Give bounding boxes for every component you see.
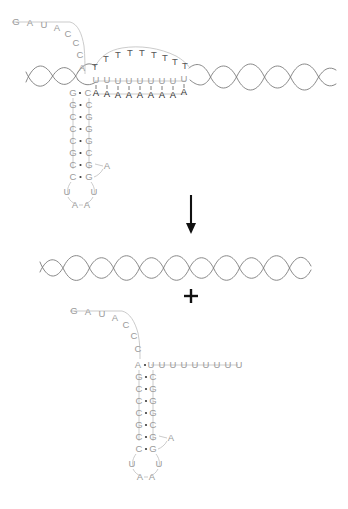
top-dna-template-a-row: A A A A A A A A A [93,86,188,100]
loop-right-u-base: U [91,186,98,197]
u-base: U [170,75,177,86]
u-base: U [181,359,188,370]
t-base: T [127,47,133,58]
top-stem-junction: G C [69,87,91,98]
stem-left-base: C [70,123,77,134]
u-base: U [203,359,210,370]
a-base: A [181,86,188,97]
stem-left-base: C [70,135,77,146]
junction-right-base: C [85,87,92,98]
loop-right-u-base: U [156,458,163,469]
stem-left-base: C [136,395,143,406]
t-base: T [172,56,178,67]
bottom-hairpin-stem: G C C G C G C G G C C G C G [135,370,156,454]
t-base: T [103,53,109,64]
u-base: U [225,359,232,370]
loop-left-u-base: U [129,458,136,469]
a-base: A [104,88,111,99]
pair-dot [145,436,147,438]
t-base: T [139,47,145,58]
a-base: A [93,87,100,98]
molecular-diagram: T T T T T T T T T G A U A C C C A U U U [0,0,348,509]
loop-bulge-base: A [104,160,111,171]
stem-left-base: C [136,383,143,394]
rna-tail-base: A [54,22,61,33]
rna-tail-base: U [41,19,48,30]
stem-right-base: C [86,147,93,158]
u-base: U [93,74,100,85]
pair-dot [79,164,81,166]
rna-tail-base: C [73,37,80,48]
reannealed-dna-duplex [40,256,311,281]
displaced-t-strand: T T T T T T T T T [92,47,190,72]
stem-right-base: G [149,431,156,442]
stem-right-base: G [149,395,156,406]
stem-left-base: C [70,111,77,122]
stem-left-base: C [70,171,77,182]
rna-tail-junction-base: A [79,62,86,73]
bottom-rna-horizontal-arm: A U U U U U U U U U [135,359,243,370]
pair-dot [145,400,147,402]
rna-tail-base: G [12,16,19,27]
stem-left-base: G [69,99,76,110]
rna-tail-base: C [65,28,72,39]
a-base: A [126,89,133,100]
rna-tail-base: C [131,330,138,341]
pair-dot [145,388,147,390]
junction-left-base: A [135,359,142,370]
rna-tail-base: A [27,17,34,28]
stem-left-base: G [135,371,142,382]
loop-left-u-base: U [64,186,71,197]
pair-dot [79,152,81,154]
u-base: U [159,359,166,370]
stem-right-base: G [85,123,92,134]
rna-tail-base: G [70,305,77,316]
rna-tail-base: C [135,343,142,354]
stem-left-base: C [136,407,143,418]
a-base: A [115,89,122,100]
top-dna-helix-right [189,64,336,90]
stem-right-base: G [149,407,156,418]
u-base: U [192,359,199,370]
plus-sign [184,289,198,303]
stem-left-base: C [70,159,77,170]
loop-bottom-base: A [84,199,91,210]
top-dna-helix-left [26,64,96,86]
pair-dot [79,176,81,178]
pair-dot [145,412,147,414]
bottom-rna-tail: G A U A C C C [70,305,142,359]
stem-right-base: G [85,135,92,146]
stem-right-base: C [150,371,157,382]
t-base: T [182,60,188,71]
top-rna-horizontal-arm: U U U U U U U U U [93,73,188,86]
loop-bottom-base: A [72,199,79,210]
u-base: U [159,75,166,86]
rna-tail-base: C [77,49,84,60]
stem-right-base: G [85,159,92,170]
u-base: U [104,74,111,85]
rna-tail-base: A [112,312,119,323]
pair-dot [144,364,146,366]
arrowhead [186,223,196,234]
u-base: U [126,75,133,86]
top-rna-tail: G A U A C C C A [12,16,86,74]
stem-right-base: G [85,171,92,182]
loop-bulge-base: A [168,432,175,443]
rna-tail-base: A [85,306,92,317]
stem-left-base: G [135,419,142,430]
u-base: U [181,73,188,84]
stem-left-base: C [136,431,143,442]
stem-right-base: C [86,99,93,110]
u-base: U [236,359,243,370]
t-base: T [92,61,98,72]
u-base: U [214,359,221,370]
diagram-canvas: T T T T T T T T T G A U A C C C A U U U [0,0,348,509]
reaction-arrow [186,195,196,234]
loop-bottom-base: A [137,471,144,482]
pair-dot [145,376,147,378]
a-base: A [159,89,166,100]
a-base: A [148,89,155,100]
t-base: T [162,52,168,63]
pair-dot [79,116,81,118]
pair-dot [79,128,81,130]
